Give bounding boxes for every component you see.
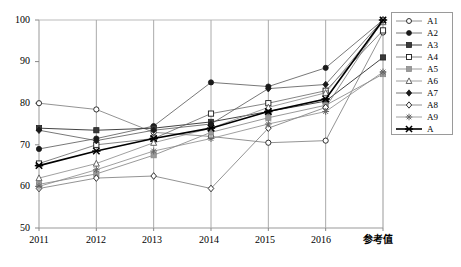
legend-label: A9: [427, 112, 438, 122]
y-axis-tick-label: 90: [4, 56, 30, 66]
legend-item[interactable]: A2: [392, 27, 452, 39]
x-axis-tick-label: 2016: [300, 234, 342, 245]
legend-label: A4: [427, 52, 438, 62]
legend-label: A5: [427, 64, 438, 74]
legend-item[interactable]: A8: [392, 99, 452, 111]
x-axis-tick-label: 2014: [188, 234, 230, 245]
x-axis-tick-label: 2015: [244, 234, 286, 245]
legend-marker-icon: [394, 123, 424, 135]
x-axis-tick-label: 2012: [75, 234, 117, 245]
legend-marker-icon: [394, 27, 424, 39]
line-chart: 100 90 80 70 60 50 2011 2012 2013 2014 2…: [0, 0, 461, 267]
legend-item[interactable]: A3: [392, 39, 452, 51]
legend-label: A7: [427, 88, 438, 98]
legend-marker-icon: [394, 99, 424, 111]
legend-marker-icon: [394, 75, 424, 87]
x-axis-tick-label: 参考值: [355, 234, 401, 245]
y-axis-tick-label: 70: [4, 140, 30, 150]
y-axis-tick-label: 80: [4, 98, 30, 108]
legend-marker-icon: [394, 39, 424, 51]
legend-marker-icon: [394, 111, 424, 123]
legend-item[interactable]: A: [392, 123, 452, 135]
y-axis-tick-label: 60: [4, 181, 30, 191]
legend-item[interactable]: A4: [392, 51, 452, 63]
legend-marker-icon: [394, 87, 424, 99]
legend-label: A3: [427, 40, 438, 50]
y-axis-tick-label: 50: [4, 223, 30, 233]
y-axis-tick-label: 100: [4, 15, 30, 25]
chart-legend: A1 A2 A3 A4 A5 A6 A7 A8: [391, 12, 453, 135]
legend-item[interactable]: A7: [392, 87, 452, 99]
legend-item[interactable]: A9: [392, 111, 452, 123]
legend-marker-icon: [394, 63, 424, 75]
legend-label: A1: [427, 16, 438, 26]
x-axis-tick-label: 2013: [131, 234, 173, 245]
legend-marker-icon: [394, 15, 424, 27]
legend-label: A6: [427, 76, 438, 86]
legend-marker-icon: [394, 51, 424, 63]
legend-item[interactable]: A1: [392, 15, 452, 27]
legend-item[interactable]: A6: [392, 75, 452, 87]
x-axis-tick-label: 2011: [18, 234, 60, 245]
legend-label: A8: [427, 100, 438, 110]
legend-item[interactable]: A5: [392, 63, 452, 75]
legend-label: A2: [427, 28, 438, 38]
legend-label: A: [427, 124, 434, 134]
